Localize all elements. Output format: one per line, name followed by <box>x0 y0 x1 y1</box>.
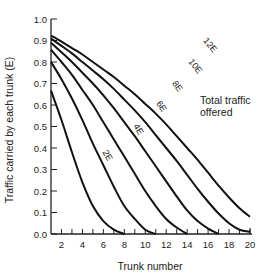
y-tick-label: 0.1 <box>34 207 47 218</box>
curves <box>51 36 250 234</box>
x-tick-label: 12 <box>161 239 172 250</box>
curve-10e <box>51 39 250 232</box>
curve-label-8e: 8E <box>170 79 185 94</box>
x-axis: 2468101214161820 <box>51 228 255 250</box>
x-tick-label: 20 <box>245 239 256 250</box>
curve-12e <box>51 36 250 217</box>
y-tick-label: 0.4 <box>34 143 47 154</box>
curve-4e <box>51 62 156 234</box>
curve-label-2e: 2E <box>101 148 115 163</box>
x-tick-label: 6 <box>101 239 106 250</box>
y-tick-label: 0.8 <box>34 57 47 68</box>
curve-2e <box>51 91 124 234</box>
annotation-total-traffic: Total traffic offered <box>200 94 254 118</box>
x-tick-label: 14 <box>182 239 193 250</box>
y-tick-label: 0.7 <box>34 78 47 89</box>
x-tick-label: 2 <box>59 239 64 250</box>
y-axis-title: Traffic carried by each trunk (E) <box>3 57 15 203</box>
y-tick-label: 0.3 <box>34 164 47 175</box>
curve-label-6e: 6E <box>154 99 168 114</box>
y-axis: 0.00.10.20.30.40.50.60.70.80.91.0 <box>34 14 57 240</box>
y-tick-label: 0.2 <box>34 186 47 197</box>
curve-label-12e: 12E <box>201 36 219 55</box>
y-tick-label: 1.0 <box>34 14 47 25</box>
curve-6e <box>51 50 187 234</box>
x-tick-label: 18 <box>224 239 235 250</box>
y-tick-label: 0.5 <box>34 121 47 132</box>
y-tick-label: 0.6 <box>34 100 47 111</box>
x-tick-label: 4 <box>80 239 85 250</box>
x-tick-label: 10 <box>140 239 151 250</box>
curve-label-10e: 10E <box>186 57 204 76</box>
x-tick-label: 16 <box>203 239 214 250</box>
y-tick-label: 0.9 <box>34 35 47 46</box>
x-axis-title: Trunk number <box>118 260 183 272</box>
y-tick-label: 0.0 <box>34 229 47 240</box>
x-tick-label: 8 <box>122 239 127 250</box>
traffic-per-trunk-chart: 0.00.10.20.30.40.50.60.70.80.91.0 246810… <box>0 0 269 279</box>
